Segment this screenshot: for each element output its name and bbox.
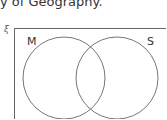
universal-set-symbol: ξ <box>4 24 9 34</box>
set-label-s: S <box>147 35 154 48</box>
universal-set-box <box>15 29 167 120</box>
circle-s <box>76 37 158 119</box>
set-label-m: M <box>27 35 37 48</box>
venn-diagram <box>0 0 166 119</box>
circle-m <box>23 37 105 119</box>
